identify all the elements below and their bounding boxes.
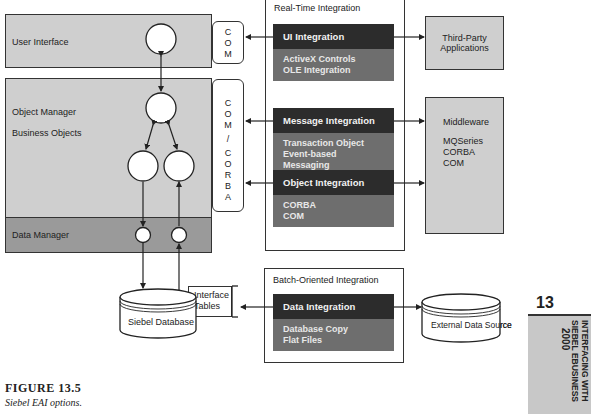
business-object-circle (128, 151, 194, 181)
external-data-source-label-top: External Data Source (431, 320, 512, 330)
ui-component-circle (146, 24, 176, 54)
siebel-database-label-top: Siebel Database (128, 317, 194, 327)
diagram-connections (0, 0, 591, 414)
siebel-database-cylinder (120, 289, 196, 338)
external-data-source-cylinder (422, 294, 500, 342)
data-manager-circle (136, 228, 187, 243)
object-manager-circle (146, 93, 176, 123)
